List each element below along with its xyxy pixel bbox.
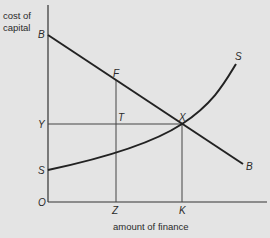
- s-curve: [48, 64, 236, 170]
- label-b-end: B: [246, 161, 253, 172]
- x-axis-label: amount of finance: [113, 221, 189, 232]
- b-line: [48, 35, 243, 164]
- y-axis-label-line2: capital: [3, 22, 30, 33]
- y-axis-label-line1: cost of: [3, 10, 31, 21]
- label-x: X: [178, 112, 186, 123]
- cost-of-capital-diagram: cost of capital amount of finance B F S …: [0, 0, 270, 238]
- label-o: O: [38, 197, 46, 208]
- label-f: F: [113, 68, 120, 79]
- label-s-top: S: [235, 51, 242, 62]
- label-z: Z: [111, 205, 119, 216]
- label-k: K: [179, 205, 187, 216]
- label-y: Y: [38, 119, 46, 130]
- label-s-low: S: [38, 165, 45, 176]
- label-t: T: [118, 112, 125, 123]
- label-b-top: B: [38, 29, 45, 40]
